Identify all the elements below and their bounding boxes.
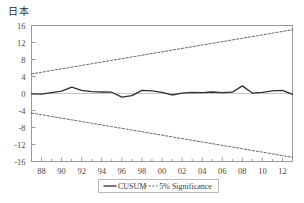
x-axis-tick-label: 94 <box>98 166 107 176</box>
series-line <box>32 86 293 97</box>
chart-legend: CUSUM5% Significance <box>99 180 219 193</box>
y-axis-tick-label: -8 <box>18 123 25 133</box>
y-axis-tick-label: -16 <box>14 157 25 167</box>
series-line <box>32 113 293 157</box>
plot-area: 1612840-4-8-12-16 8890929496980002040608… <box>0 0 304 203</box>
y-axis-tick-label: 8 <box>21 55 25 65</box>
x-axis-tick-labels: 88909294969800020406081012 <box>37 166 286 176</box>
x-axis-tick-label: 06 <box>218 166 227 176</box>
x-axis-tick-label: 10 <box>258 166 267 176</box>
x-axis-tick-label: 90 <box>57 166 66 176</box>
y-axis-tick-label: -12 <box>14 140 25 150</box>
x-axis-tick-label: 02 <box>178 166 187 176</box>
x-axis-tick-label: 98 <box>138 166 147 176</box>
x-axis-tick-label: 08 <box>238 166 247 176</box>
legend-label: 5% Significance <box>159 182 212 191</box>
y-axis-tick-label: -4 <box>18 106 26 116</box>
y-axis-tick-label: 0 <box>21 89 25 99</box>
x-axis-tick-label: 88 <box>37 166 46 176</box>
x-axis-tick-label: 04 <box>198 166 207 176</box>
series-line <box>32 30 293 74</box>
x-axis-tick-marks <box>42 158 293 162</box>
x-axis-tick-label: 00 <box>158 166 167 176</box>
cusum-chart: 日本 1612840-4-8-12-16 8890929496980002040… <box>0 0 304 203</box>
legend-label: CUSUM <box>118 182 146 191</box>
y-axis-tick-label: 12 <box>17 38 26 48</box>
y-axis-tick-label: 4 <box>21 72 26 82</box>
x-axis-tick-label: 92 <box>77 166 86 176</box>
y-axis-tick-label: 16 <box>17 21 26 31</box>
x-axis-tick-label: 12 <box>278 166 287 176</box>
y-axis-tick-labels: 1612840-4-8-12-16 <box>14 21 26 167</box>
x-axis-tick-label: 96 <box>118 166 127 176</box>
